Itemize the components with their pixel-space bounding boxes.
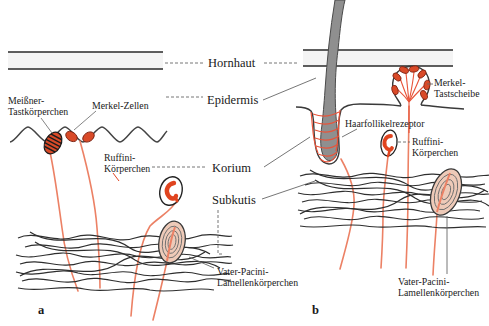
- label-ruffini-b-line2: Körperchen: [412, 147, 458, 158]
- ruffini-corpuscle-a: [157, 174, 186, 208]
- meissner-corpuscle: [40, 129, 67, 158]
- label-ruffini-a-line1: Ruffini-: [104, 152, 135, 163]
- label-merkel-zellen: Merkel-Zellen: [92, 100, 149, 111]
- ruffini-corpuscle-b: [379, 129, 398, 157]
- label-korium: Korium: [212, 161, 251, 175]
- diagram-canvas: a Hornhaut Epidermis Korium Subkutis: [0, 0, 489, 326]
- vater-pacini-corpuscle-b: [425, 165, 468, 220]
- label-vater-pacini-b-line2: Lamellenkörperchen: [398, 287, 479, 298]
- label-vater-pacini-b-line1: Vater-Pacini-: [398, 276, 450, 287]
- label-vater-pacini-a-line1: Vater-Pacini-: [217, 266, 269, 277]
- hornhaut-band-panel-a: [8, 52, 163, 69]
- label-ruffini-b-line1: Ruffini-: [412, 136, 443, 147]
- skin-receptor-diagram: a Hornhaut Epidermis Korium Subkutis: [0, 0, 489, 326]
- hair-shaft: [321, 0, 345, 161]
- label-merkel-tastscheibe-line2: Tastscheibe: [434, 88, 480, 99]
- label-haarfollikelrezeptor: Haarfollikelrezeptor: [345, 118, 425, 129]
- panel-b-letter: b: [312, 303, 319, 317]
- label-epidermis: Epidermis: [207, 93, 259, 107]
- label-subkutis: Subkutis: [212, 193, 256, 207]
- label-meissner-line1: Meißner-: [8, 95, 44, 106]
- label-hornhaut: Hornhaut: [208, 56, 256, 70]
- label-meissner-line2: Tastkörperchen: [8, 106, 68, 117]
- label-vater-pacini-a-line2: Lamellenkörperchen: [217, 277, 298, 288]
- hornhaut-band-panel-b: [303, 50, 453, 66]
- label-merkel-tastscheibe-line1: Merkel-: [434, 77, 466, 88]
- panel-a-letter: a: [38, 303, 45, 317]
- label-ruffini-a-line2: Körperchen: [104, 163, 150, 174]
